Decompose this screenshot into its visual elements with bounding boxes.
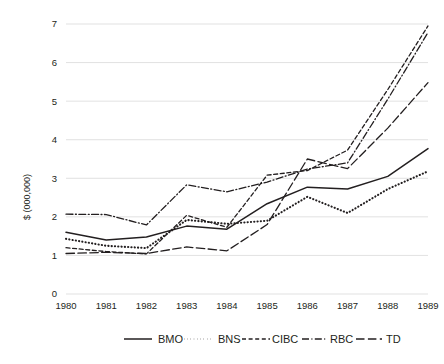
y-tick-label: 3 — [52, 173, 57, 184]
x-tick-label: 1985 — [257, 300, 278, 311]
x-tick-label: 1989 — [417, 300, 438, 311]
legend-label-bns[interactable]: BNS — [218, 333, 241, 345]
line-chart: 01234567 1980198119821983198419851986198… — [0, 0, 444, 364]
legend-label-bmo[interactable]: BMO — [158, 333, 184, 345]
x-tick-label: 1981 — [96, 300, 117, 311]
x-axis-tick-labels: 1980198119821983198419851986198719881989 — [55, 300, 438, 311]
series-line-bns — [66, 171, 428, 248]
y-axis-title-group: $ (000,000) — [22, 174, 32, 220]
legend-label-rbc[interactable]: RBC — [330, 333, 353, 345]
x-tick-label: 1982 — [136, 300, 157, 311]
legend-label-cibc[interactable]: CIBC — [272, 333, 298, 345]
series-line-rbc — [66, 32, 428, 224]
y-tick-label: 2 — [52, 211, 57, 222]
x-tick-label: 1980 — [55, 300, 76, 311]
y-tick-label: 7 — [52, 18, 57, 29]
y-axis-title: $ (000,000) — [22, 174, 32, 220]
series-line-td — [66, 83, 428, 254]
gridlines — [66, 24, 428, 294]
x-tick-label: 1988 — [377, 300, 398, 311]
x-tick-label: 1984 — [216, 300, 237, 311]
y-tick-label: 1 — [52, 250, 57, 261]
x-tick-label: 1987 — [337, 300, 358, 311]
y-tick-label: 5 — [52, 96, 57, 107]
x-tick-label: 1983 — [176, 300, 197, 311]
y-tick-label: 6 — [52, 57, 57, 68]
chart-canvas: 01234567 1980198119821983198419851986198… — [0, 0, 444, 364]
y-tick-label: 0 — [52, 288, 57, 299]
legend: BMOBNSCIBCRBCTD — [124, 333, 401, 345]
legend-label-td[interactable]: TD — [386, 333, 401, 345]
x-tick-label: 1986 — [297, 300, 318, 311]
y-tick-label: 4 — [52, 134, 57, 145]
y-axis-tick-labels: 01234567 — [52, 18, 57, 299]
series-line-bmo — [66, 149, 428, 240]
